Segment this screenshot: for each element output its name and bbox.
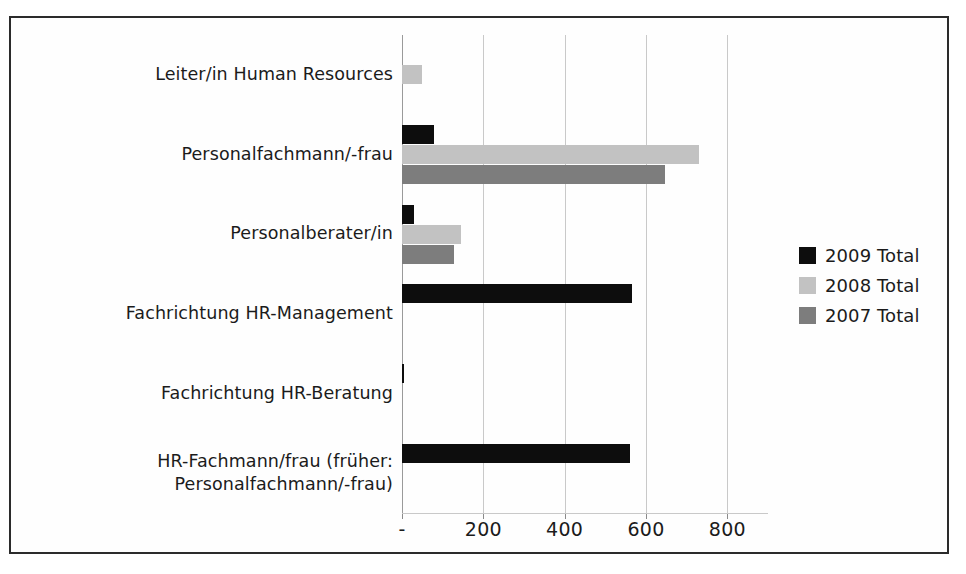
category-label: Leiter/in Human Resources xyxy=(155,63,393,85)
legend-label: 2008 Total xyxy=(825,275,920,296)
legend-item: 2008 Total xyxy=(799,270,939,300)
bar-2009-cat2 xyxy=(402,205,414,224)
plot-area xyxy=(402,35,768,513)
bar-2007-cat2 xyxy=(402,245,454,264)
value-tick-label: 200 xyxy=(465,518,502,540)
category-label: HR-Fachmann/frau (früher: Personalfachma… xyxy=(157,450,393,495)
axis-baseline xyxy=(402,513,768,514)
gridline-400 xyxy=(565,35,566,513)
gridline-600 xyxy=(646,35,647,513)
bar-2008-cat0 xyxy=(402,65,422,84)
value-tick-label: - xyxy=(398,518,405,540)
legend-swatch-icon xyxy=(799,277,816,294)
value-tick-label: 400 xyxy=(546,518,583,540)
category-axis-labels: Leiter/in Human ResourcesPersonalfachman… xyxy=(31,34,393,512)
value-axis-labels: -200400600800 xyxy=(402,518,802,552)
bar-2009-cat5 xyxy=(402,444,630,463)
value-tick-label: 600 xyxy=(627,518,664,540)
chart-frame: Leiter/in Human ResourcesPersonalfachman… xyxy=(9,16,949,554)
gridline-800 xyxy=(727,35,728,513)
gridline-200 xyxy=(483,35,484,513)
category-label: Fachrichtung HR-Management xyxy=(126,302,393,324)
legend-item: 2007 Total xyxy=(799,300,939,330)
bar-2009-cat4 xyxy=(402,364,404,383)
value-axis-line xyxy=(402,35,403,513)
legend-label: 2009 Total xyxy=(825,245,920,266)
bar-2009-cat1 xyxy=(402,125,434,144)
category-label: Personalberater/in xyxy=(230,222,393,244)
bar-2008-cat2 xyxy=(402,225,461,244)
legend-item: 2009 Total xyxy=(799,240,939,270)
bar-2009-cat3 xyxy=(402,284,632,303)
bar-2007-cat1 xyxy=(402,165,665,184)
legend-swatch-icon xyxy=(799,247,816,264)
legend-swatch-icon xyxy=(799,307,816,324)
legend-label: 2007 Total xyxy=(825,305,920,326)
chart-legend: 2009 Total2008 Total2007 Total xyxy=(799,240,939,330)
value-tick-label: 800 xyxy=(709,518,746,540)
bar-2008-cat1 xyxy=(402,145,699,164)
category-label: Personalfachmann/-frau xyxy=(181,143,393,165)
category-label: Fachrichtung HR-Beratung xyxy=(161,382,393,404)
